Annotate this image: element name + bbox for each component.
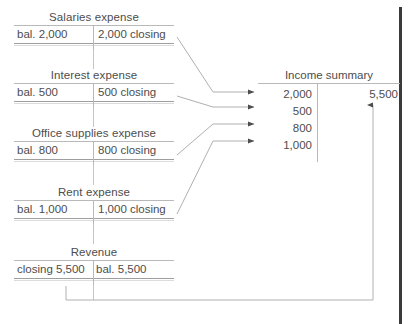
t-account-interest-expense: Interest expense bal. 500 500 closing [14,68,174,104]
t-account-divider [93,201,94,227]
t-account-credit-value: 2,000 closing [98,26,166,43]
connector-office-supplies-to-income-summary [177,124,254,155]
t-account-title: Interest expense [14,68,174,83]
t-account-title: Rent expense [14,185,174,200]
t-account-divider-stub [93,108,94,127]
t-account-bottom-rule-second [14,45,174,46]
t-account-title: Income summary [258,68,400,83]
t-account-debit-value: bal. 500 [17,84,58,101]
t-account-row: bal. 1,000 1,000 closing [14,201,174,218]
t-account-row: bal. 800 800 closing [14,142,174,159]
income-summary-debit-value: 800 [258,121,312,135]
t-account-divider [317,84,318,162]
t-account-row: closing 5,500 bal. 5,500 [14,261,174,278]
t-account-row: bal. 2,000 2,000 closing [14,26,174,43]
t-account-bottom-rule [14,159,174,160]
t-account-credit-value: 1,000 closing [98,201,166,218]
t-account-divider [93,26,94,52]
t-account-credit-value: 500 closing [98,84,156,101]
t-account-debit-value: bal. 800 [17,142,58,159]
t-account-credit-value: 800 closing [98,142,156,159]
t-account-bottom-rule-second [14,220,174,221]
t-account-bottom-rule-second [14,280,174,281]
t-account-divider [93,261,94,287]
t-account-divider-stub [93,50,94,69]
t-account-row: bal. 500 500 closing [14,84,174,101]
t-account-divider [93,84,94,110]
diagram-canvas: Salaries expense bal. 2,000 2,000 closin… [0,0,413,324]
t-account-credit-value: bal. 5,500 [96,261,147,278]
t-account-divider-stub [93,166,94,185]
t-account-divider-stub [93,285,94,300]
t-account-body: 2,000 500 800 1,000 5,500 [258,84,400,162]
t-account-title: Revenue [14,245,174,260]
income-summary-debit-value: 1,000 [258,138,312,152]
t-account-divider [93,142,94,168]
income-summary-debit-value: 2,000 [258,87,312,101]
t-account-debit-value: bal. 1,000 [17,201,68,218]
income-summary-credit-value: 5,500 [320,87,398,101]
t-account-divider-stub [93,225,94,244]
connector-interest-to-income-summary [177,96,254,107]
t-account-title: Salaries expense [14,10,174,25]
t-account-bottom-rule-second [14,103,174,104]
income-summary-debit-value: 500 [258,104,312,118]
t-account-income-summary: Income summary 2,000 500 800 1,000 5,500 [258,68,400,162]
t-account-title: Office supplies expense [14,126,174,141]
connector-rent-to-income-summary [177,141,254,214]
t-account-bottom-rule [14,101,174,102]
t-account-rent-expense: Rent expense bal. 1,000 1,000 closing [14,185,174,221]
t-account-bottom-rule [14,218,174,219]
connector-salaries-to-income-summary [177,37,254,92]
t-account-revenue: Revenue closing 5,500 bal. 5,500 [14,245,174,281]
t-account-salaries-expense: Salaries expense bal. 2,000 2,000 closin… [14,10,174,46]
t-account-office-supplies-expense: Office supplies expense bal. 800 800 clo… [14,126,174,162]
t-account-debit-value: closing 5,500 [17,261,85,278]
t-account-bottom-rule [14,43,174,44]
t-account-bottom-rule-second [14,161,174,162]
page-right-border [399,7,402,324]
t-account-bottom-rule [14,278,174,279]
t-account-debit-value: bal. 2,000 [17,26,68,43]
